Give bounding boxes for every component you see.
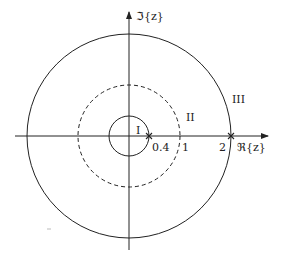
imag-axis-label: ℑ{z} xyxy=(136,10,164,23)
region-label-II: II xyxy=(186,111,195,124)
label-2: 2 xyxy=(219,141,226,154)
z-plane-diagram: ℑ{z} ℜ{z} 0.4 1 2 I II III xyxy=(0,0,284,260)
label-0.4: 0.4 xyxy=(152,141,170,154)
region-label-III: III xyxy=(232,93,245,106)
region-label-I: I xyxy=(136,124,140,137)
real-axis-label: ℜ{z} xyxy=(237,141,266,154)
scan-artifact xyxy=(47,228,51,230)
label-1: 1 xyxy=(182,141,189,154)
